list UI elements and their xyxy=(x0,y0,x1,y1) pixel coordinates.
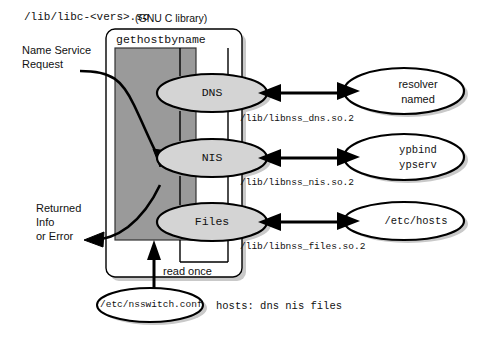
libc-title-suffix: (GNU C library) xyxy=(135,12,207,24)
ypbind-ypserv-ellipse[interactable] xyxy=(344,134,464,180)
resolver-label: resolver xyxy=(376,78,460,91)
nis-ellipse-label: NIS xyxy=(162,151,262,165)
returned-info-label-line3: or Error xyxy=(36,230,73,243)
files-ellipse-label: Files xyxy=(162,215,262,229)
nis-module-path-label: /lib/libnss_nis.so.2 xyxy=(240,177,354,188)
named-label: named xyxy=(376,93,460,106)
dns-module-path-label: /lib/libnss_dns.so.2 xyxy=(240,113,354,124)
nss-architecture-diagram: /lib/libc-<vers>.so (GNU C library) geth… xyxy=(0,0,483,345)
read-once-label: read once xyxy=(163,265,212,278)
libc-title-path: /lib/libc-<vers>.so xyxy=(24,11,149,24)
name-service-request-label-line2: Request xyxy=(22,58,63,71)
returned-info-label-line1: Returned xyxy=(36,202,81,215)
dns-ellipse-label: DNS xyxy=(162,86,262,100)
returned-info-label-line2: Info xyxy=(36,216,54,229)
module-links xyxy=(258,82,360,231)
gethostbyname-label: gethostbyname xyxy=(116,33,206,47)
hosts-entry-label: hosts: dns nis files xyxy=(216,300,342,312)
ypserv-label: ypserv xyxy=(376,159,460,171)
etc-hosts-label: /etc/hosts xyxy=(366,215,466,227)
returned-info-arrowhead xyxy=(84,232,104,247)
name-service-request-label-line1: Name Service xyxy=(22,44,91,57)
ypbind-label: ypbind xyxy=(376,144,460,156)
nsswitch-conf-label: /etc/nsswitch.conf xyxy=(100,299,200,310)
resolver-named-ellipse[interactable] xyxy=(344,68,464,114)
files-module-path-label: /lib/libnss_files.so.2 xyxy=(240,241,365,252)
